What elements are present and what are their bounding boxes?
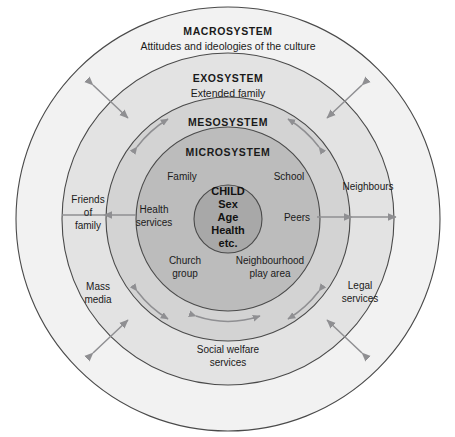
diagram-canvas: MACROSYSTEM Attitudes and ideologies of … [0,0,455,437]
core-line-1: CHILD [211,185,245,197]
node-mass-media-line-1: Mass [86,281,110,292]
node-peers-line-1: Peers [284,212,310,223]
node-friends-line-2: of [84,207,93,218]
node-friends-line-3: family [75,220,101,231]
node-neighbours-line-1: Neighbours [342,181,393,192]
node-peers: Peers [284,212,310,223]
core-line-2: Sex [218,198,238,210]
node-legal-services-line-2: services [342,293,379,304]
macrosystem-title: MACROSYSTEM [183,25,272,37]
exosystem-title: EXOSYSTEM [193,72,264,84]
node-friends-line-1: Friends [71,194,104,205]
macrosystem-subtitle: Attitudes and ideologies of the culture [140,40,315,52]
node-neighbourhood-line-2: play area [249,268,291,279]
core-line-3: Age [218,211,239,223]
mesosystem-title: MESOSYSTEM [188,116,268,128]
node-social-welfare-line-1: Social welfare [197,344,260,355]
microsystem-title: MICROSYSTEM [186,146,271,158]
core-line-5: etc. [219,237,238,249]
node-health-services-line-2: services [136,217,173,228]
node-family: Family [167,171,196,182]
core-line-4: Health [211,224,245,236]
node-church-group-line-1: Church [169,255,201,266]
node-legal-services-line-1: Legal [348,280,372,291]
exosystem-subtitle: Extended family [191,87,266,99]
node-social-welfare-line-2: services [210,357,247,368]
node-school: School [274,171,305,182]
node-church-group-line-2: group [172,268,198,279]
node-mass-media-line-2: media [84,294,112,305]
node-neighbourhood-line-1: Neighbourhood [236,255,304,266]
ecological-systems-diagram: MACROSYSTEM Attitudes and ideologies of … [0,0,455,437]
node-neighbours: Neighbours [342,181,393,192]
node-health-services-line-1: Health [140,204,169,215]
node-family-line-1: Family [167,171,196,182]
node-school-line-1: School [274,171,305,182]
